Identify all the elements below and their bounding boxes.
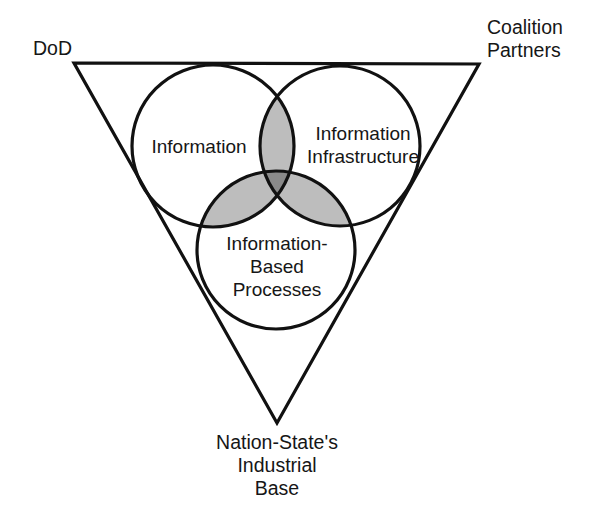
corner-label-dod: DoD (33, 37, 72, 59)
label-information-infrastructure-line2: Infrastructure (307, 146, 419, 167)
label-information: Information (151, 136, 246, 157)
corner-label-nation-state-line3: Base (255, 477, 299, 499)
venn-triangle-diagram: DoD Coalition Partners Nation-State's In… (0, 0, 594, 522)
corner-label-coalition-line1: Coalition (487, 16, 563, 38)
label-information-infrastructure-line1: Information (315, 123, 410, 144)
corner-label-nation-state-line2: Industrial (237, 454, 316, 476)
label-information-based-processes-line2: Based (250, 256, 304, 277)
corner-label-coalition-line2: Partners (487, 39, 561, 61)
corner-label-nation-state-line1: Nation-State's (216, 431, 338, 453)
label-information-based-processes-line1: Information- (226, 233, 327, 254)
label-information-based-processes-line3: Processes (233, 279, 322, 300)
diagram-root: DoD Coalition Partners Nation-State's In… (0, 0, 594, 522)
